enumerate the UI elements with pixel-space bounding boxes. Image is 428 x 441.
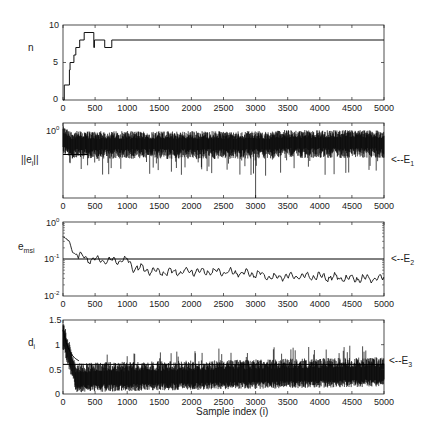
ytick-d-0: 0 [55, 389, 60, 399]
threshold-label-E3: <--E3 [389, 355, 412, 368]
ytick-emsi-1e-1: 10-1 [44, 253, 60, 264]
ylabel-d: di [28, 337, 36, 350]
ytick-n-5: 5 [53, 57, 58, 67]
ytick-d-1: 1 [55, 340, 60, 350]
labels-layer: n 10 5 0 ||ei|| 100 <--E1 emsi 100 10-1 … [0, 0, 428, 441]
ytick-d-0.5: 0.5 [49, 365, 62, 375]
ytick-emsi-1e0: 100 [46, 217, 60, 228]
ytick-d-1.5: 1.5 [49, 315, 62, 325]
threshold-label-E1: <--E1 [391, 154, 414, 167]
ytick-e-1e0: 100 [46, 125, 60, 136]
ytick-emsi-1e-2: 10-2 [44, 290, 60, 301]
ytick-n-0: 0 [53, 94, 58, 104]
xlabel: Sample index (i) [196, 406, 268, 417]
ytick-n-10: 10 [49, 20, 59, 30]
ylabel-e-norm: ||ei|| [21, 154, 39, 167]
ylabel-emsi: emsi [18, 241, 35, 254]
threshold-label-E2: <--E2 [391, 253, 414, 266]
ylabel-n: n [28, 42, 34, 53]
